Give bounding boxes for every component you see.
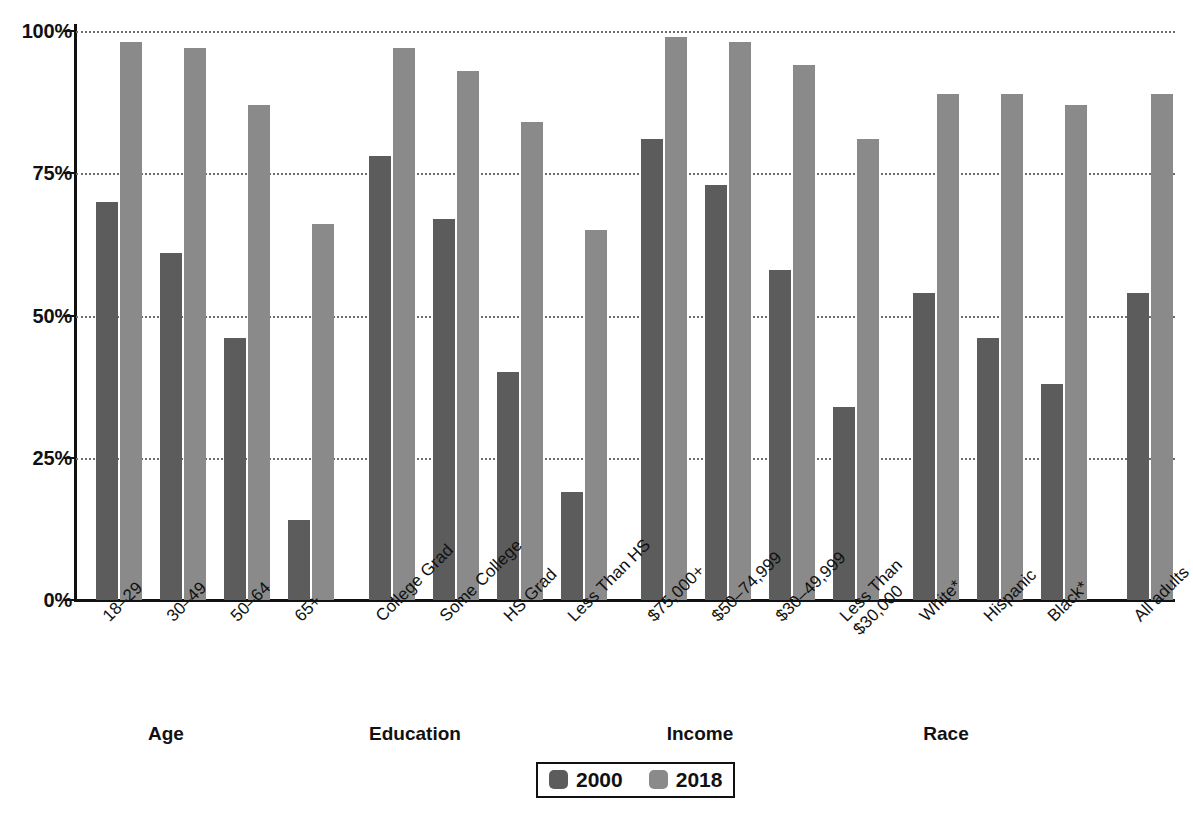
bar-2018-10 (793, 65, 815, 600)
group-title-race: Race (923, 723, 968, 745)
chart-legend: 2000 2018 (536, 762, 735, 798)
legend-label-2000: 2000 (576, 769, 623, 790)
gridline-100 (76, 31, 1175, 33)
group-title-education: Education (369, 723, 461, 745)
bar-2018-12 (937, 94, 959, 600)
bar-2000-3 (288, 520, 310, 600)
bar-2000-1 (160, 253, 182, 600)
bar-2000-9 (705, 185, 727, 600)
y-tick-label-50: 50% (33, 306, 72, 326)
bar-2000-2 (224, 338, 246, 600)
bar-2018-15 (1151, 94, 1173, 600)
bar-2018-4 (393, 48, 415, 600)
bar-2018-9 (729, 42, 751, 600)
y-tick-label-25: 25% (33, 448, 72, 468)
legend-swatch-2018-icon (649, 770, 668, 789)
bar-2000-7 (561, 492, 583, 600)
legend-entry-2000: 2000 (549, 769, 623, 790)
legend-entry-2018: 2018 (649, 769, 723, 790)
bar-2018-2 (248, 105, 270, 600)
bar-2000-8 (641, 139, 663, 600)
bar-2000-0 (96, 202, 118, 600)
bar-2000-14 (1041, 384, 1063, 600)
bar-2018-0 (120, 42, 142, 600)
bar-2018-8 (665, 37, 687, 600)
y-tick-label-100: 100% (22, 21, 72, 41)
bar-2018-1 (184, 48, 206, 600)
legend-swatch-2000-icon (549, 770, 568, 789)
group-title-age: Age (148, 723, 184, 745)
group-title-income: Income (667, 723, 734, 745)
plot-area (76, 31, 1175, 600)
bar-2018-11 (857, 139, 879, 600)
legend-label-2018: 2018 (676, 769, 723, 790)
bar-2000-4 (369, 156, 391, 600)
bar-2018-14 (1065, 105, 1087, 600)
bar-2000-13 (977, 338, 999, 600)
y-tick-label-75: 75% (33, 163, 72, 183)
y-tick-label-0: 0% (43, 590, 72, 610)
bar-2018-3 (312, 224, 334, 600)
bar-2000-12 (913, 293, 935, 600)
bar-2018-6 (521, 122, 543, 600)
bar-2018-7 (585, 230, 607, 600)
bar-2000-15 (1127, 293, 1149, 600)
bar-2018-5 (457, 71, 479, 600)
bar-2018-13 (1001, 94, 1023, 600)
